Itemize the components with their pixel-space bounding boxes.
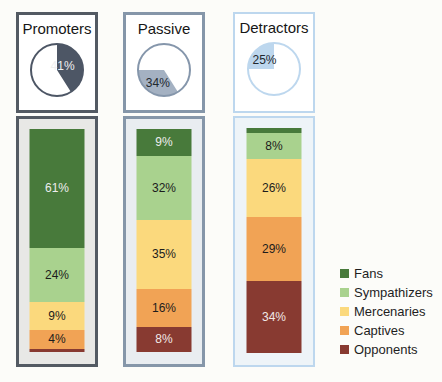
segment-label: 8% — [155, 333, 172, 345]
promoters-title: Promoters — [22, 20, 91, 38]
passive-pie-chart: 34% — [136, 42, 192, 98]
fans-swatch-icon — [340, 269, 349, 278]
promoters-pie-chart: 41% — [29, 42, 85, 98]
segment-label: 4% — [48, 333, 65, 345]
bar-segment-opponents: 34% — [247, 281, 302, 353]
legend-label: Opponents — [354, 343, 418, 356]
legend-item-captives: Captives — [340, 324, 433, 337]
bar-segment-opponents — [30, 349, 85, 353]
opponents-swatch-icon — [340, 345, 349, 354]
segment-label: 61% — [45, 182, 69, 194]
bar-segment-mercenaries: 26% — [247, 159, 302, 217]
segment-label: 32% — [152, 182, 176, 194]
bar-segment-fans: 9% — [137, 129, 192, 156]
detractors-title: Detractors — [239, 19, 308, 37]
legend: Fans Sympathizers Mercenaries Captives O… — [340, 267, 433, 362]
legend-label: Fans — [354, 267, 383, 280]
captives-swatch-icon — [340, 326, 349, 335]
legend-item-opponents: Opponents — [340, 343, 433, 356]
segment-label: 34% — [262, 311, 286, 323]
segment-label: 9% — [48, 310, 65, 322]
detractors-pie-chart: 25% — [246, 41, 302, 97]
legend-label: Mercenaries — [354, 305, 426, 318]
detractors-pie-share-label: 25% — [252, 54, 276, 66]
legend-item-sympathizers: Sympathizers — [340, 286, 433, 299]
segment-label: 24% — [45, 269, 69, 281]
bar-segment-sympathizers: 8% — [247, 133, 302, 159]
legend-item-mercenaries: Mercenaries — [340, 305, 433, 318]
segment-label: 9% — [155, 136, 172, 148]
column-detractors: Detractors 25% 8% 26% 29% 34% — [233, 12, 315, 367]
segment-label: 29% — [262, 243, 286, 255]
passive-pie-share-label: 34% — [146, 77, 170, 89]
legend-label: Sympathizers — [354, 286, 433, 299]
bar-segment-sympathizers: 32% — [137, 156, 192, 220]
passive-header-box: Passive 34% — [123, 12, 205, 113]
column-passive: Passive 34% 9% 32% 35% 16% 8% — [123, 12, 205, 367]
bar-segment-captives: 16% — [137, 289, 192, 327]
column-promoters: Promoters 41% 61% 24% 9% 4% — [16, 12, 98, 367]
segment-label: 8% — [265, 140, 282, 152]
passive-title: Passive — [138, 20, 191, 38]
segment-label: 16% — [152, 302, 176, 314]
legend-item-fans: Fans — [340, 267, 433, 280]
legend-label: Captives — [354, 324, 405, 337]
figure-canvas: Promoters 41% 61% 24% 9% 4% Passive 34% — [0, 0, 442, 382]
detractors-bar-box: 8% 26% 29% 34% — [233, 116, 315, 367]
passive-bar-box: 9% 32% 35% 16% 8% — [123, 116, 205, 367]
bar-segment-mercenaries: 9% — [30, 302, 85, 330]
bar-segment-mercenaries: 35% — [137, 220, 192, 289]
mercenaries-swatch-icon — [340, 307, 349, 316]
bar-segment-opponents: 8% — [137, 327, 192, 352]
promoters-header-box: Promoters 41% — [16, 12, 98, 113]
bar-segment-captives: 29% — [247, 217, 302, 280]
pie-icon — [246, 41, 302, 97]
segment-label: 35% — [152, 248, 176, 260]
segment-label: 26% — [262, 182, 286, 194]
detractors-stacked-bar: 8% 26% 29% 34% — [247, 128, 302, 353]
sympathizers-swatch-icon — [340, 288, 349, 297]
bar-segment-fans: 61% — [30, 129, 85, 248]
passive-stacked-bar: 9% 32% 35% 16% 8% — [137, 129, 192, 352]
promoters-stacked-bar: 61% 24% 9% 4% — [30, 129, 85, 352]
bar-segment-sympathizers: 24% — [30, 248, 85, 302]
promoters-pie-share-label: 41% — [51, 60, 75, 72]
bar-segment-captives: 4% — [30, 330, 85, 349]
detractors-header-box: Detractors 25% — [233, 12, 315, 113]
promoters-bar-box: 61% 24% 9% 4% — [16, 116, 98, 367]
